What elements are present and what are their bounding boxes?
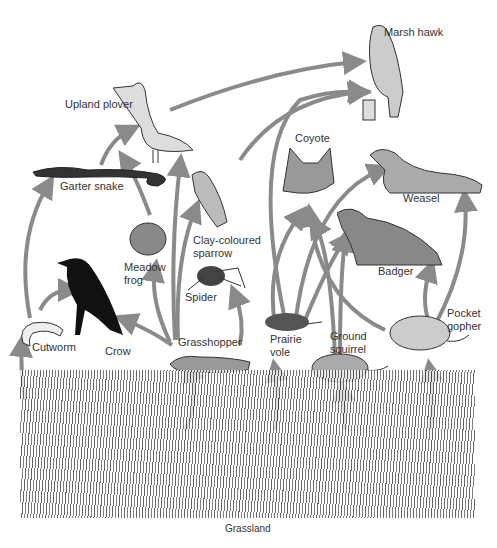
label-pocket-gopher-2: gopher	[447, 320, 481, 333]
upland-plover-icon	[113, 78, 198, 166]
label-ground-squirrel-1: Ground	[330, 330, 367, 343]
label-badger: Badger	[378, 265, 413, 278]
label-meadow-frog-1: Meadow	[124, 261, 166, 274]
coyote-icon	[278, 143, 338, 195]
label-pocket-gopher-1: Pocket	[447, 307, 481, 320]
prairie-vole-icon	[262, 310, 322, 332]
label-crow: Crow	[105, 345, 131, 358]
label-marsh-hawk: Marsh hawk	[384, 26, 443, 39]
label-weasel: Weasel	[403, 192, 439, 205]
label-grassland: Grassland	[225, 522, 271, 535]
grassland-illustration	[20, 370, 475, 518]
label-meadow-frog-2: frog	[124, 274, 143, 287]
badger-icon	[337, 203, 447, 273]
label-cutworm: Cutworm	[32, 341, 76, 354]
clay-sparrow-icon	[187, 167, 232, 232]
label-ground-squirrel-2: squirrel	[330, 343, 366, 356]
weasel-icon	[370, 145, 485, 195]
spider-icon	[183, 262, 248, 294]
label-clay-sparrow-1: Clay-coloured	[193, 234, 261, 247]
label-spider: Spider	[185, 291, 217, 304]
meadow-frog-icon	[123, 217, 168, 259]
label-garter-snake: Garter snake	[60, 180, 124, 193]
label-coyote: Coyote	[295, 132, 330, 145]
label-upland-plover: Upland plover	[65, 98, 133, 111]
label-prairie-vole-1: Prairie	[270, 333, 302, 346]
label-prairie-vole-2: vole	[270, 346, 290, 359]
label-clay-sparrow-2: sparrow	[193, 247, 232, 260]
label-grasshopper: Grasshopper	[178, 336, 242, 349]
